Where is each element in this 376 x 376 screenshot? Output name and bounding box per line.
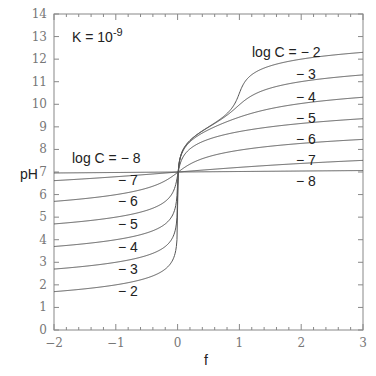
y-tick-label: 0 [39, 323, 47, 337]
right-curve-label: − 6 [296, 131, 316, 147]
left-curve-label: − 4 [118, 239, 138, 255]
y-tick-label: 14 [32, 7, 48, 21]
curve-logC-6 [54, 139, 363, 201]
x-axis-title: f [204, 352, 208, 368]
left-curve-label: log C = − 8 [72, 150, 141, 166]
y-tick-label: 6 [39, 188, 47, 202]
right-curve-label: − 7 [296, 152, 316, 168]
right-curve-label: − 4 [296, 89, 316, 105]
x-tick-label: 2 [297, 336, 305, 350]
left-curve-label: − 3 [118, 261, 138, 277]
y-tick-label: 10 [32, 97, 47, 111]
x-tick-label: −2 [45, 336, 63, 350]
left-curve-label: − 7 [118, 172, 138, 188]
y-tick-label: 11 [32, 75, 47, 89]
y-tick-label: 9 [39, 120, 47, 134]
right-curve-label: − 8 [296, 173, 316, 189]
y-tick-label: 4 [39, 233, 47, 247]
left-curve-label: − 2 [118, 283, 138, 299]
y-tick-label: 2 [39, 278, 47, 292]
left-curve-label: − 6 [118, 193, 138, 209]
titration-chart: −2−1012301234567891011121314 log C = − 8… [0, 0, 376, 376]
y-tick-label: 7 [39, 165, 47, 179]
y-tick-label: 3 [39, 255, 47, 269]
y-tick-label: 13 [32, 30, 47, 44]
y-tick-label: 1 [39, 300, 47, 314]
y-axis-title: pH [20, 166, 38, 182]
x-tick-label: 1 [236, 336, 244, 350]
x-tick-label: 0 [174, 336, 182, 350]
y-tick-label: 5 [39, 210, 47, 224]
y-tick-label: 8 [39, 142, 47, 156]
curves [54, 52, 363, 291]
x-tick-label: 3 [359, 336, 367, 350]
right-curve-label: − 3 [296, 66, 316, 82]
y-tick-label: 12 [32, 52, 47, 66]
right-curve-label: − 5 [296, 110, 316, 126]
left-curve-label: − 5 [118, 216, 138, 232]
k-annotation: K = 10-9 [72, 26, 123, 45]
right-curve-label: log C = − 2 [252, 44, 321, 60]
x-tick-label: −1 [107, 336, 125, 350]
curve-logC-8 [54, 171, 363, 173]
